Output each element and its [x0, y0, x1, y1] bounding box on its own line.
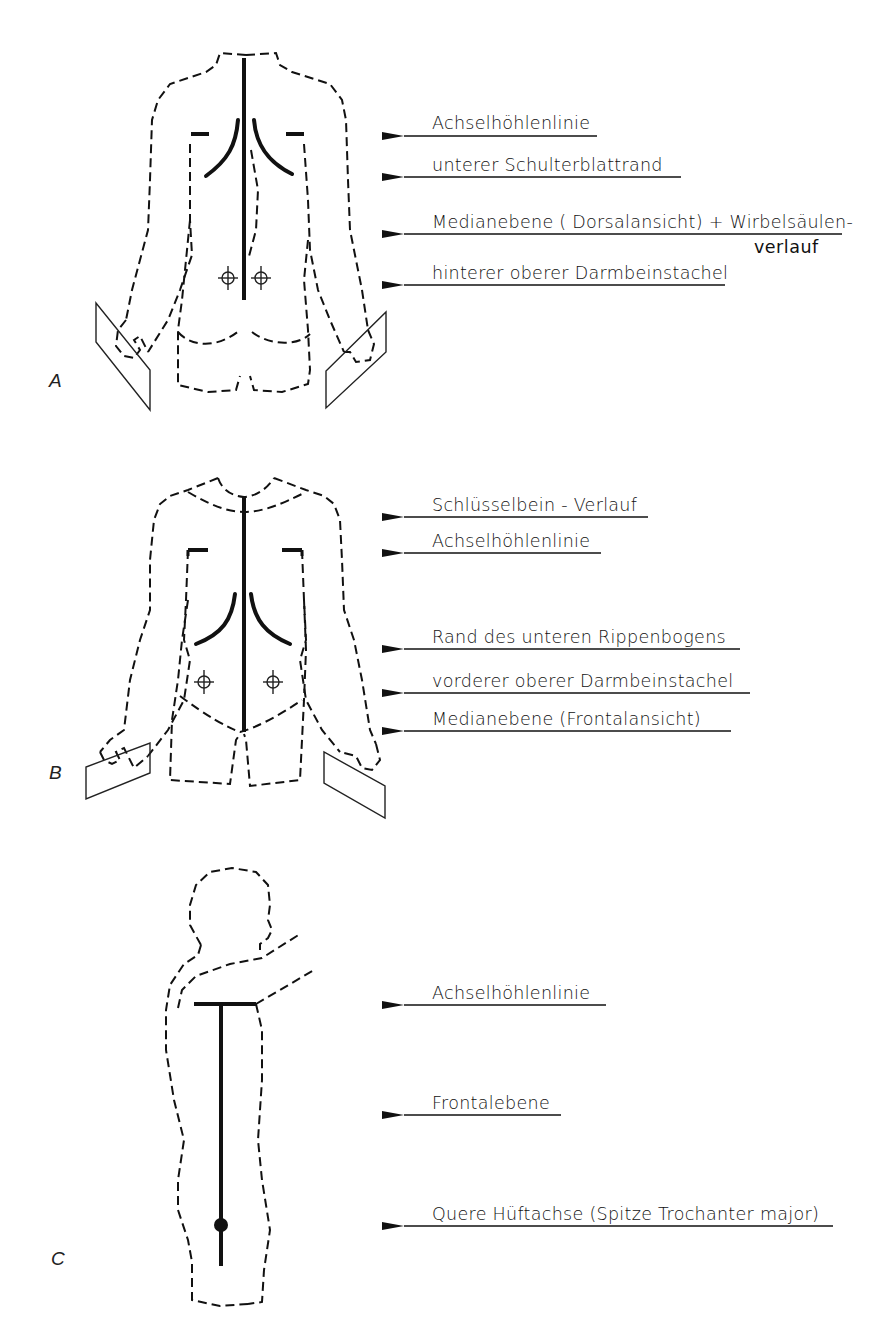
- hip-axis-point: [214, 1218, 228, 1232]
- left-hand-board: [96, 303, 150, 410]
- crosshair-icon: [251, 266, 271, 290]
- label-median-plane-dorsal-continuation: verlauf: [754, 237, 819, 257]
- figure-c-lateral-body: [166, 868, 314, 1306]
- label-psis: hinterer oberer Darmbeinstachel: [432, 263, 728, 283]
- label-asis: vorderer oberer Darmbeinstachel: [432, 671, 733, 691]
- label-clavicle-course: Schlüsselbein - Verlauf: [432, 495, 637, 515]
- label-scapula-lower-border: unterer Schulterblattrand: [432, 155, 663, 175]
- crosshair-icon: [218, 266, 238, 290]
- label-median-plane-dorsal: Medianebene ( Dorsalansicht) + Wirbelsäu…: [432, 212, 853, 232]
- label-axillary-line-a: Achselhöhlenlinie: [432, 113, 590, 133]
- figure-a-dorsal-body: [96, 53, 386, 410]
- crosshair-icon: [263, 670, 283, 694]
- panel-letter-c: C: [51, 1248, 65, 1270]
- label-hip-axis: Quere Hüftachse (Spitze Trochanter major…: [432, 1204, 819, 1224]
- right-hand-board: [324, 752, 385, 818]
- left-hand-board: [86, 743, 150, 799]
- crosshair-icon: [194, 670, 214, 694]
- label-axillary-line-c: Achselhöhlenlinie: [432, 983, 590, 1003]
- panel-letter-b: B: [49, 762, 62, 784]
- panel-letter-a: A: [49, 370, 62, 392]
- label-median-plane-frontal: Medianebene (Frontalansicht): [432, 709, 701, 729]
- right-hand-board: [326, 312, 386, 408]
- label-axillary-line-b: Achselhöhlenlinie: [432, 531, 590, 551]
- label-frontal-plane: Frontalebene: [432, 1093, 550, 1113]
- label-costal-margin: Rand des unteren Rippenbogens: [432, 627, 726, 647]
- figure-b-frontal-body: [86, 478, 385, 818]
